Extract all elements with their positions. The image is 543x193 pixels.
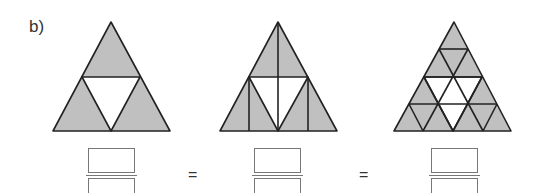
numerator-input-2[interactable] [254, 148, 301, 173]
equals-sign-2: = [359, 166, 368, 184]
triangle-figure-3 [394, 22, 511, 131]
fraction-bar-1 [86, 175, 137, 176]
numerator-input-3[interactable] [431, 148, 478, 173]
triangle-figure-2 [220, 22, 337, 131]
fraction-bar-2 [252, 175, 303, 176]
denominator-input-2[interactable] [254, 178, 301, 193]
triangle-figure-1 [53, 22, 170, 131]
denominator-input-3[interactable] [431, 178, 478, 193]
equals-sign-1: = [188, 166, 197, 184]
numerator-input-1[interactable] [88, 148, 135, 173]
fraction-bar-3 [429, 175, 480, 176]
denominator-input-1[interactable] [88, 178, 135, 193]
